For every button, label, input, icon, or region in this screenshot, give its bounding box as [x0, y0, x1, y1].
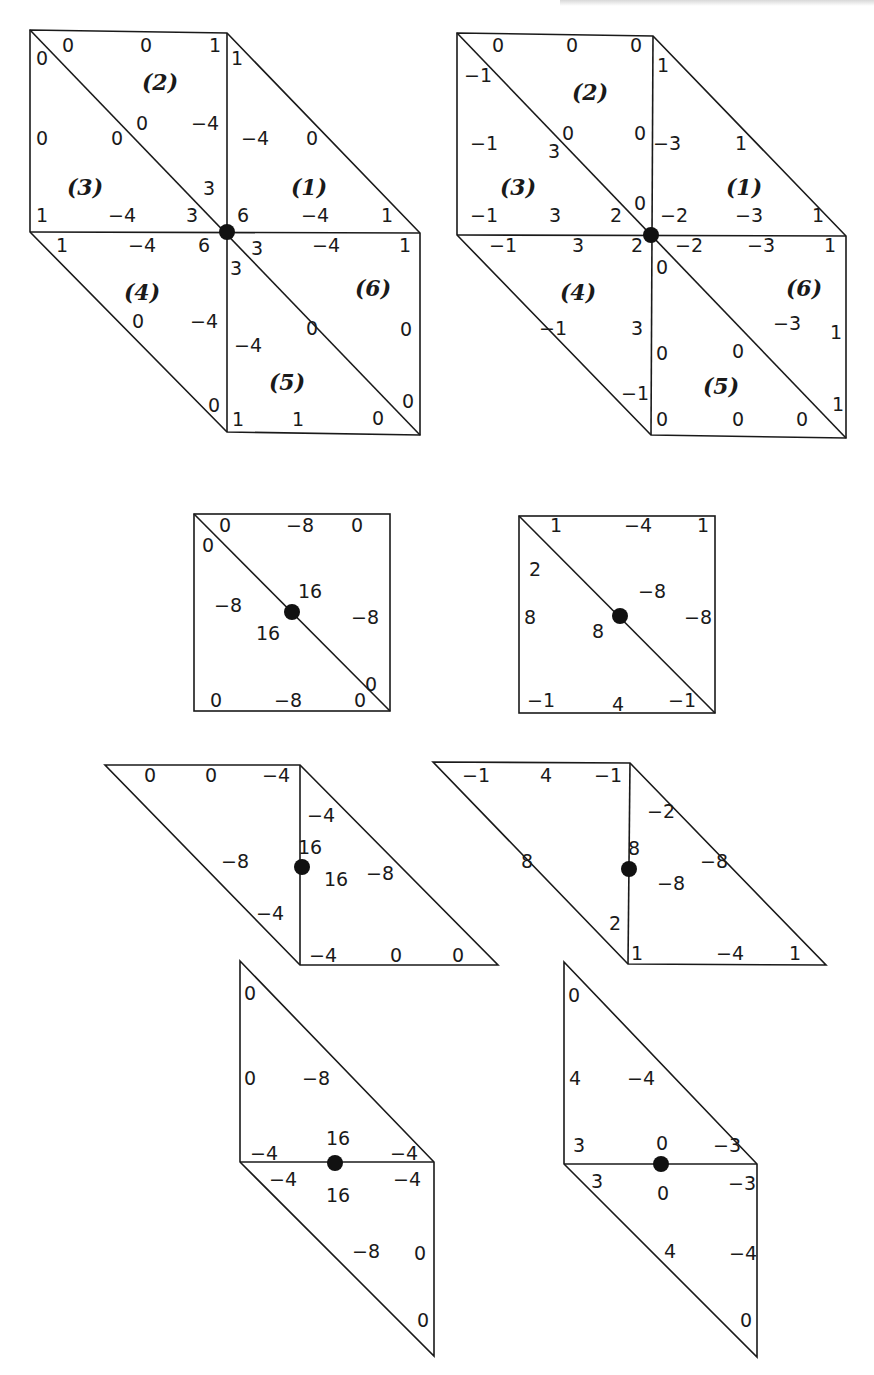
- node-value-label: −4: [191, 112, 219, 134]
- node-value-label: −1: [489, 234, 517, 256]
- node-value-label: 8: [628, 837, 640, 859]
- parallelogram-horizontal-left-panel: 00−4−416−816−8−4−400: [105, 764, 498, 966]
- node-value-label: −2: [647, 800, 675, 822]
- node-value-label: 0: [144, 764, 156, 786]
- node-value-label: 3: [591, 1170, 603, 1192]
- node-value-label: 0: [210, 689, 222, 711]
- node-value-label: 0: [452, 944, 464, 966]
- hex-right-center-node: [643, 227, 659, 243]
- parallelogram-horizontal-right-center-node: [621, 861, 637, 877]
- node-value-label: −3: [728, 1172, 756, 1194]
- node-value-label: −4: [624, 514, 652, 536]
- node-value-label: 0: [244, 982, 256, 1004]
- node-value-label: 0: [140, 34, 152, 56]
- node-value-label: −8: [221, 850, 249, 872]
- node-value-label: −4: [309, 944, 337, 966]
- node-value-label: −8: [638, 580, 666, 602]
- square-right-center-node: [612, 608, 628, 624]
- node-value-label: 0: [132, 310, 144, 332]
- node-value-label: 0: [36, 127, 48, 149]
- node-value-label: 0: [208, 394, 220, 416]
- hex-left-panel: 00101000−4−4031−436−411−463−4130−4−40001…: [30, 30, 420, 435]
- node-value-label: −8: [352, 1240, 380, 1262]
- element-region-label: (6): [786, 275, 822, 301]
- square-left-panel: 0−80016−816−800−80: [194, 514, 390, 711]
- node-value-label: 0: [562, 122, 574, 144]
- node-value-label: 0: [732, 408, 744, 430]
- node-value-label: 0: [219, 514, 231, 536]
- node-value-label: 4: [612, 693, 624, 715]
- node-value-label: 0: [656, 408, 668, 430]
- node-value-label: −4: [241, 127, 269, 149]
- node-value-label: 0: [390, 944, 402, 966]
- element-region-label: (5): [269, 369, 305, 395]
- element-region-label: (1): [726, 174, 762, 200]
- node-value-label: −4: [262, 764, 290, 786]
- node-value-label: 0: [417, 1309, 429, 1331]
- node-value-label: 0: [656, 1132, 668, 1154]
- element-region-label: (4): [560, 279, 596, 305]
- node-value-label: −4: [108, 204, 136, 226]
- node-value-label: 16: [326, 1127, 350, 1149]
- node-value-label: 0: [634, 122, 646, 144]
- node-value-label: 6: [198, 234, 210, 256]
- node-value-label: 0: [351, 514, 363, 536]
- diagram-canvas: 00101000−4−4031−436−411−463−4130−4−40001…: [0, 0, 874, 1375]
- square-right-panel: 1−412−888−8−14−1: [519, 514, 715, 715]
- node-value-label: 1: [789, 942, 801, 964]
- element-region-label: (3): [67, 174, 103, 200]
- node-value-label: 8: [521, 850, 533, 872]
- node-value-label: −3: [713, 1134, 741, 1156]
- node-value-label: −1: [539, 317, 567, 339]
- node-value-label: −8: [302, 1067, 330, 1089]
- node-value-label: −1: [668, 689, 696, 711]
- node-value-label: −4: [234, 334, 262, 356]
- hex-left-center-node: [219, 224, 235, 240]
- node-value-label: −4: [716, 942, 744, 964]
- node-value-label: −3: [653, 132, 681, 154]
- node-value-label: 3: [548, 140, 560, 162]
- node-value-label: 1: [292, 408, 304, 430]
- node-value-label: −1: [527, 689, 555, 711]
- node-value-label: 3: [572, 234, 584, 256]
- node-value-label: 0: [354, 689, 366, 711]
- element-region-label: (3): [500, 174, 536, 200]
- parallelogram-horizontal-left-center-node: [294, 859, 310, 875]
- node-value-label: 0: [372, 407, 384, 429]
- node-value-label: 1: [550, 514, 562, 536]
- node-value-label: 0: [740, 1309, 752, 1331]
- node-value-label: −4: [307, 804, 335, 826]
- node-value-label: 0: [306, 127, 318, 149]
- node-value-label: 0: [634, 192, 646, 214]
- element-region-label: (5): [703, 373, 739, 399]
- node-value-label: 0: [400, 318, 412, 340]
- node-value-label: −4: [256, 902, 284, 924]
- node-value-label: 1: [735, 132, 747, 154]
- node-value-label: 0: [566, 34, 578, 56]
- node-value-label: 0: [492, 34, 504, 56]
- node-value-label: 1: [812, 204, 824, 226]
- node-value-label: 0: [244, 1067, 256, 1089]
- node-value-label: 3: [573, 1134, 585, 1156]
- element-region-label: (4): [124, 279, 160, 305]
- node-value-label: 4: [664, 1240, 676, 1262]
- node-value-label: 16: [256, 622, 280, 644]
- node-value-label: 3: [549, 204, 561, 226]
- node-value-label: 0: [657, 1182, 669, 1204]
- node-value-label: 1: [697, 514, 709, 536]
- node-value-label: −4: [269, 1168, 297, 1190]
- node-value-label: 4: [569, 1067, 581, 1089]
- node-value-label: −3: [773, 312, 801, 334]
- element-region-label: (2): [142, 69, 178, 95]
- node-value-label: −4: [128, 234, 156, 256]
- node-value-label: 8: [592, 620, 604, 642]
- parallelogram-horizontal-right-panel: −14−1−288−8−821−41: [433, 762, 826, 965]
- node-value-label: −2: [660, 204, 688, 226]
- element-region-label: (2): [572, 79, 608, 105]
- node-value-label: 4: [540, 764, 552, 786]
- node-value-label: 1: [830, 321, 842, 343]
- node-value-label: 1: [399, 234, 411, 256]
- node-value-label: −4: [190, 310, 218, 332]
- node-value-label: 2: [610, 204, 622, 226]
- hex-right-panel: 000−11−1300−310−132−2−31−132−2−310−13−31…: [457, 33, 846, 438]
